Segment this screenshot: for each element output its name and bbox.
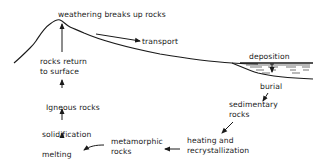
label-weathering: weathering breaks up rocks [58, 10, 166, 19]
rock-cycle-diagram: weathering breaks up rocks transport dep… [0, 0, 317, 165]
label-metamorphic-line2: rocks [111, 147, 132, 156]
label-deposition: deposition [249, 52, 290, 61]
label-metamorphic-line1: metamorphic [111, 137, 163, 146]
label-heating-line2: recrystallization [187, 146, 249, 155]
label-solidification: solidification [42, 130, 91, 139]
label-burial: burial [260, 82, 282, 91]
label-return-line2: to surface [40, 67, 79, 76]
label-melting: melting [42, 150, 72, 159]
metamorphic-to-melting-arrow [84, 145, 104, 150]
label-transport: transport [142, 37, 178, 46]
label-sedimentary-line2: rocks [229, 110, 250, 119]
label-return-line1: rocks return [40, 57, 87, 66]
sedimentary-to-heating-arrow [222, 122, 233, 133]
label-heating-line1: heating and [187, 136, 234, 145]
label-igneous: Igneous rocks [46, 103, 100, 112]
label-sedimentary-line1: sedimentary [229, 100, 278, 109]
